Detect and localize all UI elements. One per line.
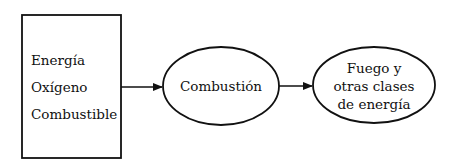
output-node: Fuego y otras clases de energía xyxy=(313,47,435,123)
input-energy: Energía xyxy=(31,52,85,68)
combustion-node: Combustión xyxy=(163,47,279,125)
combustion-diagram: Energía Oxígeno Combustible Combustión F… xyxy=(0,0,458,167)
combustion-label: Combustión xyxy=(180,78,262,94)
output-line-1: Fuego y xyxy=(347,60,402,76)
output-line-3: de energía xyxy=(337,96,410,112)
input-fuel: Combustible xyxy=(31,106,117,122)
inputs-box: Energía Oxígeno Combustible xyxy=(22,15,121,158)
input-oxygen: Oxígeno xyxy=(31,79,87,95)
output-line-2: otras clases xyxy=(333,78,414,94)
